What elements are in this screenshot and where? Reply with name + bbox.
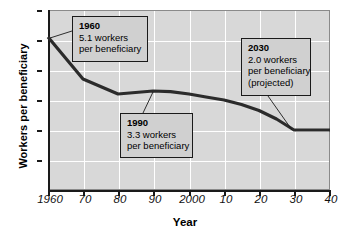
chart-root: 6 5 4 3 2 1 1960 70 80 90 2000 10 20 30 … xyxy=(0,0,342,239)
callout-2030: 2030 2.0 workers per beneficiary (projec… xyxy=(241,38,311,96)
callout-1990-line2: per beneficiary xyxy=(127,140,187,152)
callout-2030-line3: (projected) xyxy=(248,77,305,89)
callout-1960-line2: per beneficiary xyxy=(79,43,142,55)
callout-1990-line1: 3.3 workers xyxy=(127,129,187,141)
callout-1960: 1960 5.1 workers per beneficiary xyxy=(72,16,148,62)
leader-line-1990 xyxy=(143,92,153,113)
callout-2030-line1: 2.0 workers xyxy=(248,54,305,66)
callout-2030-line2: per beneficiary xyxy=(248,65,305,77)
leader-line-1960 xyxy=(50,31,72,38)
callout-1960-year: 1960 xyxy=(79,20,142,32)
callout-2030-year: 2030 xyxy=(248,42,305,54)
leader-line-2030 xyxy=(268,96,292,130)
callout-1990: 1990 3.3 workers per beneficiary xyxy=(120,113,193,158)
callout-1960-line1: 5.1 workers xyxy=(79,32,142,44)
callout-1990-year: 1990 xyxy=(127,117,187,129)
